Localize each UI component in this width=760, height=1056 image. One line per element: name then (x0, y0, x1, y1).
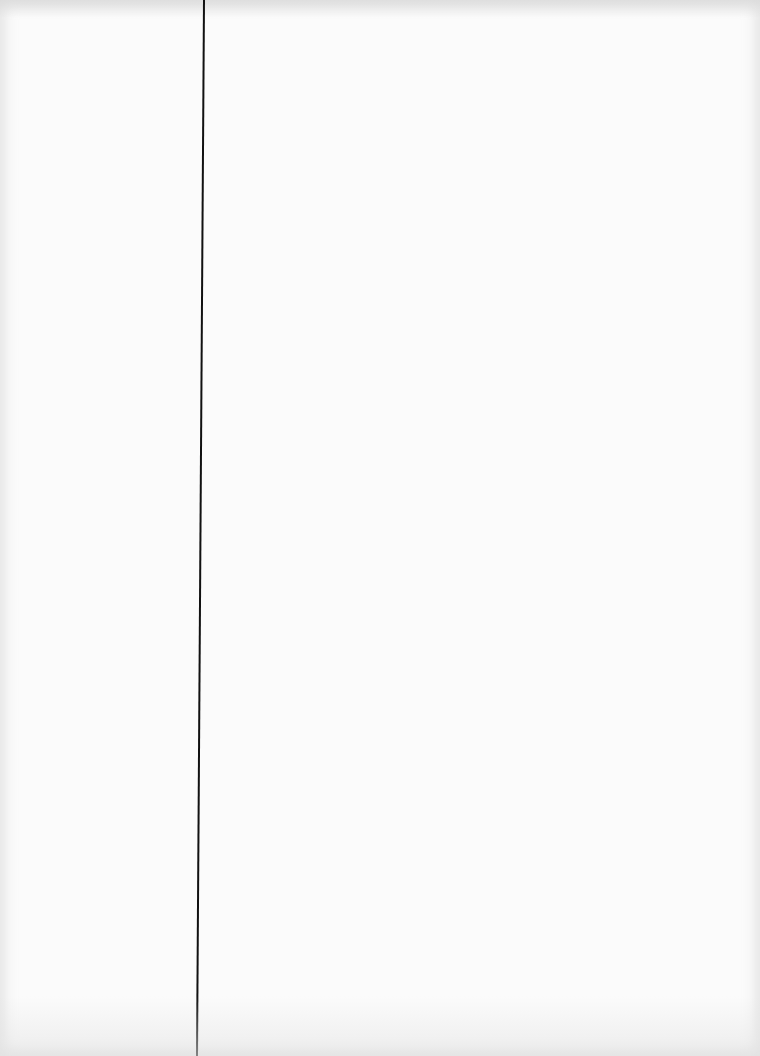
margin-line (196, 0, 205, 1056)
scan-shadow-top (0, 0, 760, 18)
scanned-page (0, 0, 760, 1056)
scan-shadow-bottom (0, 996, 760, 1056)
